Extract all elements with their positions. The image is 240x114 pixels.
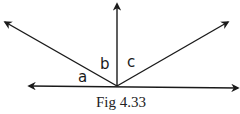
upper-left-ray bbox=[5, 22, 117, 86]
angle-figure: a b c Fig 4.33 bbox=[0, 0, 240, 114]
angle-label-b: b bbox=[100, 57, 110, 72]
figure-caption: Fig 4.33 bbox=[0, 95, 240, 110]
angle-label-a: a bbox=[78, 70, 87, 85]
horizontal-line bbox=[29, 86, 238, 88]
angle-label-c: c bbox=[127, 55, 135, 70]
